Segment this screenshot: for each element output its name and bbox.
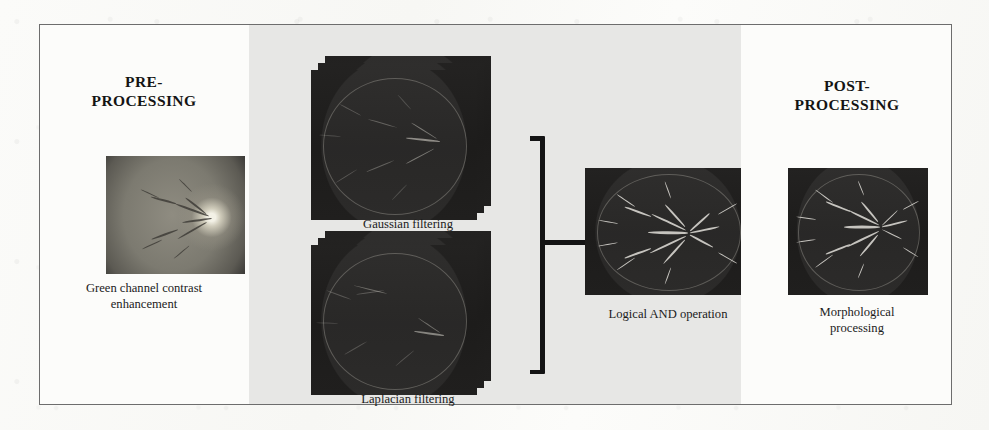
caption-logical-and: Logical AND operation [577,307,759,323]
vessel-overlay [788,168,928,295]
stage-panel-pre-processing: PRE- PROCESSING Green channel contrast e… [40,25,249,404]
caption-morph-line2: processing [767,321,947,337]
gaussian-stack-layer-1 [311,70,477,220]
caption-pre-line2: enhancement [46,297,242,313]
stage-title-post-line1: POST- [756,77,938,96]
morphological-processing-image [788,168,928,295]
bracket-bottom-stub [530,370,544,375]
vessel-overlay [106,156,245,274]
laplacian-stack-layer-1 [311,245,477,395]
fundus-green-channel-image [106,156,245,274]
caption-morph-line1: Morphological [767,305,947,321]
vessel-overlay [585,168,751,295]
caption-laplacian-filtering: Laplacian filtering [318,392,498,408]
logical-and-result-image [585,168,751,295]
stage-title-pre-line2: PROCESSING [54,92,234,111]
bracket-vertical-bar [540,136,545,374]
bracket-output-arm [542,240,587,245]
figure-frame: PRE- PROCESSING Green channel contrast e… [39,24,952,405]
vessel-overlay [311,245,477,395]
caption-morphological-processing: Morphological processing [767,305,947,337]
caption-pre-line1: Green channel contrast [46,281,242,297]
stage-title-post-line2: PROCESSING [756,96,938,115]
stage-title-pre-line1: PRE- [54,73,234,92]
stage-title-post-processing: POST- PROCESSING [756,77,938,115]
vessel-overlay [311,70,477,220]
stage-title-pre-processing: PRE- PROCESSING [54,73,234,111]
caption-pre-processing: Green channel contrast enhancement [46,281,242,313]
